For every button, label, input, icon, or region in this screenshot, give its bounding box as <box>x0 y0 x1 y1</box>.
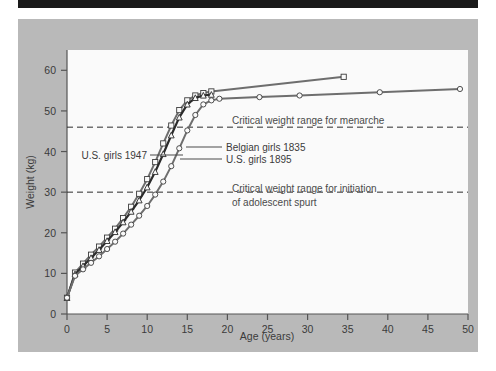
series-label-us-1947: U.S. girls 1947 <box>81 150 147 161</box>
marker-circle <box>185 128 190 133</box>
marker-circle <box>80 267 85 272</box>
marker-circle <box>177 146 182 151</box>
marker-circle <box>257 95 262 100</box>
x-tick-label: 35 <box>342 323 354 335</box>
series-label-us-1895: U.S. girls 1895 <box>226 154 292 165</box>
x-tick-label: 20 <box>222 323 234 335</box>
marker-square <box>341 74 346 79</box>
marker-circle <box>121 231 126 236</box>
marker-circle <box>96 254 101 259</box>
marker-circle <box>72 273 77 278</box>
marker-circle <box>153 192 158 197</box>
annotation-spurt-line2: of adolescent spurt <box>232 197 317 208</box>
marker-circle <box>113 239 118 244</box>
x-tick-label: 10 <box>141 323 153 335</box>
y-axis-title: Weight (kg) <box>24 155 36 209</box>
marker-circle <box>169 164 174 169</box>
figure-root: 0102030405060 05101520253035404550 Age (… <box>0 0 496 371</box>
x-tick-label: 0 <box>64 323 70 335</box>
y-tick-label: 60 <box>44 64 56 76</box>
annotation-menarche: Critical weight range for menarche <box>232 115 385 126</box>
marker-circle <box>201 102 206 107</box>
marker-circle <box>457 86 462 91</box>
marker-circle <box>105 246 110 251</box>
marker-circle <box>377 90 382 95</box>
y-tick-label: 20 <box>44 227 56 239</box>
x-tick-label: 40 <box>382 323 394 335</box>
axes <box>67 50 468 314</box>
y-tick-label: 30 <box>44 186 56 198</box>
marker-square <box>177 108 182 113</box>
marker-circle <box>145 203 150 208</box>
growth-chart: 0102030405060 05101520253035404550 Age (… <box>0 0 496 371</box>
x-tick-label: 15 <box>181 323 193 335</box>
y-tick-label: 10 <box>44 267 56 279</box>
y-tick-label: 50 <box>44 105 56 117</box>
marker-circle <box>297 93 302 98</box>
x-axis-title: Age (years) <box>240 330 294 342</box>
marker-square <box>161 141 166 146</box>
marker-circle <box>209 98 214 103</box>
series-label-belgian-1835: Belgian girls 1835 <box>226 142 306 153</box>
y-axis-ticks: 0102030405060 <box>44 64 67 320</box>
x-tick-label: 5 <box>104 323 110 335</box>
marker-circle <box>137 213 142 218</box>
marker-square <box>145 177 150 182</box>
marker-circle <box>217 96 222 101</box>
x-tick-label: 30 <box>302 323 314 335</box>
marker-circle <box>193 112 198 117</box>
marker-circle <box>64 295 69 300</box>
y-tick-label: 40 <box>44 146 56 158</box>
marker-square <box>153 159 158 164</box>
x-tick-label: 45 <box>422 323 434 335</box>
marker-circle <box>161 179 166 184</box>
annotation-spurt-line1: Critical weight range for initiation <box>232 183 377 194</box>
marker-circle <box>88 260 93 265</box>
y-tick-label: 0 <box>50 308 56 320</box>
marker-circle <box>129 222 134 227</box>
x-tick-label: 50 <box>462 323 474 335</box>
marker-square <box>169 123 174 128</box>
